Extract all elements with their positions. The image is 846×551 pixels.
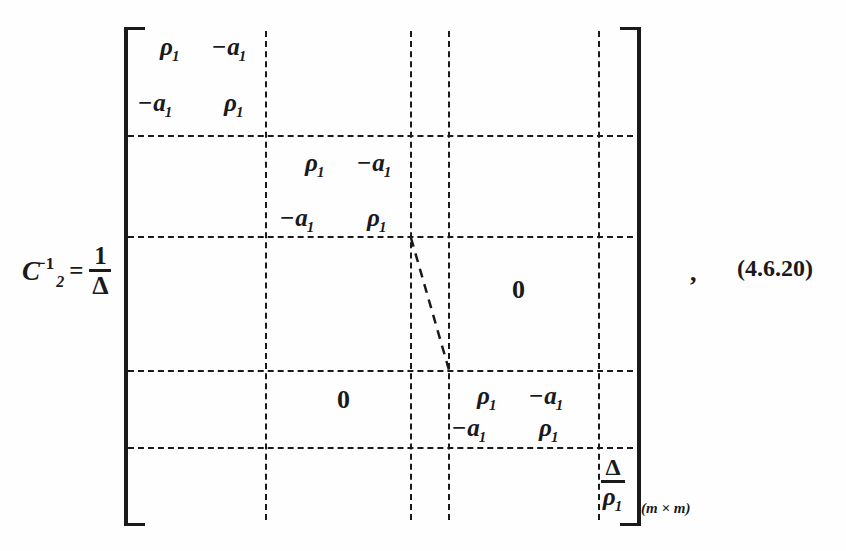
zero-block-lower-left: 0 <box>337 387 350 413</box>
block3-cell-r1c2: −a1 <box>529 383 564 408</box>
corner-entry-delta-over-rho: Δ ρ1 <box>601 455 625 509</box>
scalar-factor-fraction: 1 Δ <box>89 243 111 299</box>
block3-cell-r2c1: −a1 <box>452 415 487 440</box>
block1-cell-r2c2: ρ1 <box>224 90 244 115</box>
trailing-comma: , <box>690 258 697 288</box>
entry-symbol: a <box>153 89 166 116</box>
fraction-denominator: Δ <box>92 272 108 299</box>
partition-vline-4 <box>598 31 600 520</box>
block2-cell-r1c1: ρ1 <box>305 150 325 175</box>
equation-left-hand-side: C−12 = 1 Δ <box>22 243 111 299</box>
block2-cell-r2c2: ρ1 <box>367 205 387 230</box>
entry-subscript: 1 <box>379 219 387 235</box>
equation-figure: C−12 = 1 Δ ρ1 −a1 −a1 ρ1 ρ1 −a1 −a1 ρ1 ρ… <box>0 0 846 551</box>
corner-denominator: ρ1 <box>603 484 623 509</box>
partition-vline-1 <box>265 31 267 520</box>
block1-cell-r1c1: ρ1 <box>160 34 180 59</box>
minus-sign: − <box>138 89 152 116</box>
entry-subscript: 1 <box>551 429 559 445</box>
entry-symbol: a <box>467 414 480 441</box>
fraction-numerator: 1 <box>94 243 107 269</box>
entry-subscript: 1 <box>307 219 315 235</box>
block3-cell-r2c2: ρ1 <box>539 415 559 440</box>
minus-sign: − <box>357 149 371 176</box>
entry-subscript: 1 <box>556 397 564 413</box>
entry-subscript: 1 <box>165 104 173 120</box>
entry-subscript: 1 <box>236 104 244 120</box>
entry-subscript: 1 <box>489 397 497 413</box>
entry-symbol: ρ <box>477 382 490 409</box>
entry-subscript: 1 <box>479 429 487 445</box>
entry-symbol: ρ <box>224 89 237 116</box>
matrix-subscript: 2 <box>56 273 64 290</box>
minus-sign: − <box>212 33 226 60</box>
equals-sign: = <box>69 257 83 285</box>
partition-hline-4 <box>128 447 633 449</box>
matrix-symbol-c2-inverse: C−12 <box>22 256 66 287</box>
minus-sign: − <box>529 382 543 409</box>
block3-cell-r1c1: ρ1 <box>477 383 497 408</box>
block2-cell-r2c1: −a1 <box>280 205 315 230</box>
corner-numerator: Δ <box>605 455 620 479</box>
entry-symbol: a <box>544 382 557 409</box>
minus-sign: − <box>280 204 294 231</box>
entry-subscript: 1 <box>317 164 325 180</box>
entry-symbol: ρ <box>305 149 318 176</box>
partition-hline-3 <box>128 370 633 372</box>
partition-hline-1 <box>128 135 633 137</box>
entry-symbol: a <box>227 33 240 60</box>
corner-denominator-symbol: ρ <box>603 483 616 510</box>
diagonal-ellipsis-icon <box>405 232 460 377</box>
matrix-dimensions-label: (m × m) <box>641 500 690 517</box>
equation-number: (4.6.20) <box>737 255 813 282</box>
entry-symbol: ρ <box>160 33 173 60</box>
matrix-right-bracket <box>620 27 641 526</box>
block1-cell-r2c1: −a1 <box>138 90 173 115</box>
entry-symbol: a <box>372 149 385 176</box>
entry-subscript: 1 <box>384 164 392 180</box>
entry-symbol: ρ <box>367 204 380 231</box>
matrix-superscript: −1 <box>36 254 54 273</box>
minus-sign: − <box>452 414 466 441</box>
zero-block-upper-right: 0 <box>512 277 525 303</box>
block2-cell-r1c2: −a1 <box>357 150 392 175</box>
entry-symbol: a <box>295 204 308 231</box>
block1-cell-r1c2: −a1 <box>212 34 247 59</box>
entry-subscript: 1 <box>239 48 247 64</box>
corner-denominator-subscript: 1 <box>615 498 623 514</box>
partition-hline-2 <box>128 236 633 238</box>
entry-symbol: ρ <box>539 414 552 441</box>
entry-subscript: 1 <box>172 48 180 64</box>
